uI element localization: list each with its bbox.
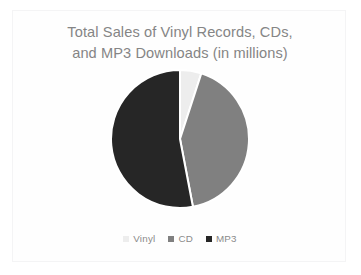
legend-swatch-vinyl-icon — [123, 236, 129, 242]
pie-slice-mp3[interactable] — [111, 70, 193, 208]
legend-swatch-cd-icon — [168, 236, 174, 242]
pie-slices — [111, 70, 249, 208]
pie-chart-plot-area — [13, 69, 347, 209]
legend-label-vinyl: Vinyl — [133, 233, 155, 244]
pie-chart-svg — [110, 69, 250, 209]
chart-legend: Vinyl CD MP3 — [13, 233, 347, 244]
legend-label-cd: CD — [178, 233, 193, 244]
legend-item-mp3[interactable]: MP3 — [206, 233, 237, 244]
chart-card: Total Sales of Vinyl Records, CDs, and M… — [12, 10, 346, 262]
legend-item-cd[interactable]: CD — [168, 233, 193, 244]
chart-title: Total Sales of Vinyl Records, CDs, and M… — [13, 22, 347, 64]
legend-item-vinyl[interactable]: Vinyl — [123, 233, 155, 244]
legend-label-mp3: MP3 — [216, 233, 237, 244]
legend-swatch-mp3-icon — [206, 236, 212, 242]
